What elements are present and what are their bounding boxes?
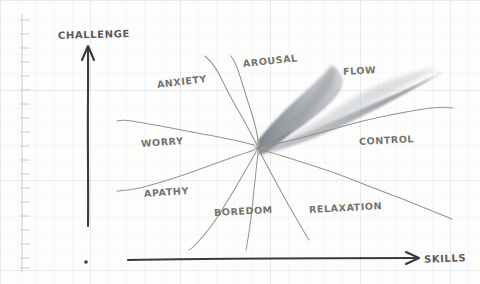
origin-dot xyxy=(84,260,88,264)
y-axis-label: CHALLENGE xyxy=(58,28,130,41)
x-axis-label: SKILLS xyxy=(424,252,467,264)
sector-label-flow: FLOW xyxy=(343,64,377,77)
sketch-canvas: CHALLENGE SKILLS AROUSAL FLOW ANXIETY CO… xyxy=(0,0,480,284)
hub-knot xyxy=(253,143,263,153)
